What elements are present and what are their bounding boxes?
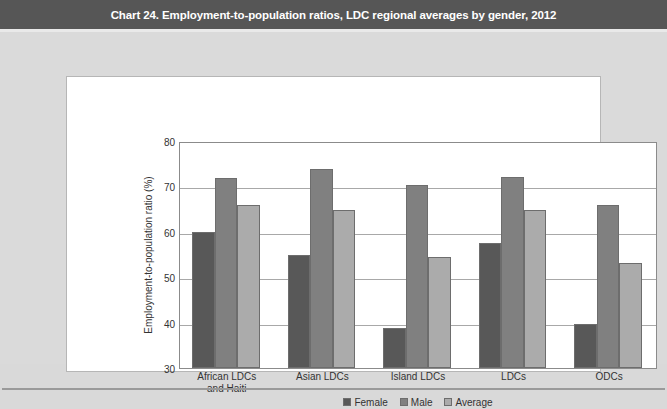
page-body: Employment-to-population ratio (%) 30405… [0, 32, 667, 364]
x-axis-tick-label-line: African LDCs [179, 371, 275, 383]
bar [215, 178, 238, 368]
chart-panel: Employment-to-population ratio (%) 30405… [66, 76, 601, 372]
bar [310, 169, 333, 368]
y-axis-tick-label: 70 [153, 182, 175, 193]
x-axis-tick-label: ODCs [561, 371, 657, 383]
legend-item[interactable]: Male [400, 397, 433, 408]
bar [619, 263, 642, 368]
legend-item[interactable]: Female [343, 397, 387, 408]
x-axis-tick-label-line: Asian LDCs [275, 371, 371, 383]
x-axis-tick-label: African LDCsand Haiti [179, 371, 275, 395]
bar [501, 177, 524, 368]
bar [574, 324, 597, 368]
bar [406, 185, 429, 368]
footer-divider [2, 388, 665, 390]
y-axis-tick-label: 80 [153, 137, 175, 148]
page-title: Chart 24. Employment-to-population ratio… [111, 9, 557, 21]
chart-legend: FemaleMaleAverage [179, 395, 657, 409]
bar-series-layer [180, 143, 656, 368]
bar [192, 232, 215, 368]
legend-swatch-icon [343, 398, 351, 406]
y-axis-tick-label: 60 [153, 227, 175, 238]
x-axis-tick-label-line: Island LDCs [370, 371, 466, 383]
legend-label: Female [354, 397, 387, 408]
legend-label: Male [411, 397, 433, 408]
x-axis-tick-label-line: LDCs [466, 371, 562, 383]
x-axis-tick-label: LDCs [466, 371, 562, 383]
legend-swatch-icon [444, 398, 452, 406]
legend-item[interactable]: Average [444, 397, 492, 408]
x-axis-tick-label-line: ODCs [561, 371, 657, 383]
bar [479, 243, 502, 368]
x-axis-tick-label: Asian LDCs [275, 371, 371, 383]
bar [383, 328, 406, 368]
bar [237, 205, 260, 368]
bar [428, 257, 451, 368]
chart-title-bar: Chart 24. Employment-to-population ratio… [0, 0, 667, 29]
y-axis-tick-label: 30 [153, 364, 175, 375]
plot-area [179, 142, 657, 369]
legend-swatch-icon [400, 398, 408, 406]
y-axis-tick-labels: 304050607080 [151, 142, 175, 369]
bar [524, 210, 547, 368]
bar [597, 205, 620, 368]
x-axis-tick-label: Island LDCs [370, 371, 466, 383]
legend-label: Average [455, 397, 492, 408]
y-axis-tick-label: 50 [153, 273, 175, 284]
bar [333, 210, 356, 368]
bar [288, 255, 311, 368]
y-axis-tick-label: 40 [153, 318, 175, 329]
